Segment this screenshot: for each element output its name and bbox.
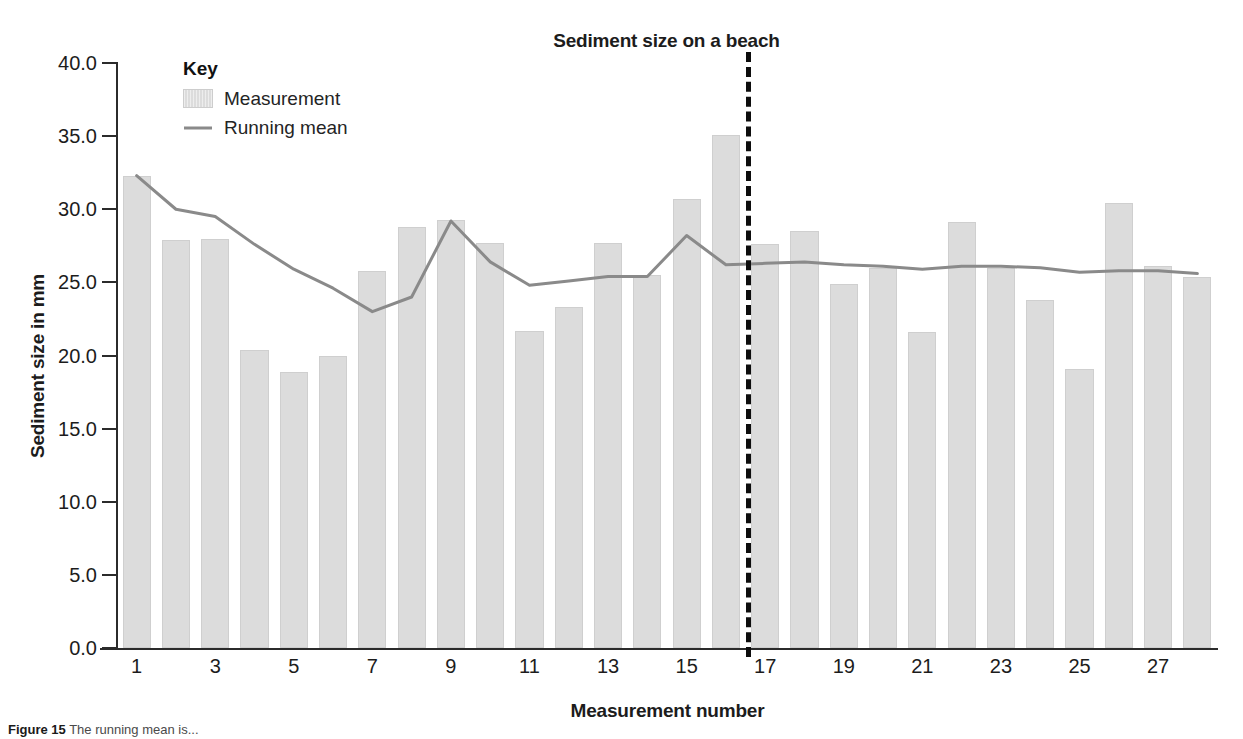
y-tick-label: 25.0	[58, 271, 97, 294]
y-tick-label: 35.0	[58, 125, 97, 148]
y-tick-label: 20.0	[58, 344, 97, 367]
y-tick-mark	[102, 574, 117, 576]
x-tick-label: 21	[911, 655, 933, 678]
x-tick-label: 7	[367, 655, 378, 678]
x-tick-label: 15	[676, 655, 698, 678]
x-tick-label: 5	[288, 655, 299, 678]
chart-title: Sediment size on a beach	[0, 30, 1243, 52]
legend-key: Key Measurement Running mean	[183, 58, 348, 141]
legend-label-measurement: Measurement	[224, 88, 340, 110]
legend-item-running-mean: Running mean	[183, 114, 348, 141]
x-axis-line	[100, 648, 1218, 650]
plot-area	[117, 63, 1217, 648]
chart-figure: Sediment size on a beach Sediment size i…	[0, 0, 1243, 739]
legend-label-running-mean: Running mean	[224, 117, 348, 139]
y-tick-mark	[102, 208, 117, 210]
y-tick-mark	[102, 428, 117, 430]
y-tick-mark	[102, 62, 117, 64]
x-tick-label: 17	[754, 655, 776, 678]
y-tick-label: 30.0	[58, 198, 97, 221]
legend-title: Key	[183, 58, 348, 80]
x-tick-label: 1	[131, 655, 142, 678]
figure-caption: Figure 15 The running mean is...	[8, 722, 1238, 739]
y-tick-mark	[102, 647, 117, 649]
y-tick-mark	[102, 281, 117, 283]
x-tick-label: 3	[210, 655, 221, 678]
x-tick-label: 19	[833, 655, 855, 678]
x-tick-label: 27	[1147, 655, 1169, 678]
y-axis: 0.05.010.015.020.025.030.035.040.0	[0, 0, 117, 739]
y-tick-mark	[102, 501, 117, 503]
x-tick-label: 9	[445, 655, 456, 678]
y-tick-label: 15.0	[58, 417, 97, 440]
x-tick-label: 13	[597, 655, 619, 678]
y-tick-mark	[102, 135, 117, 137]
y-tick-label: 5.0	[69, 563, 97, 586]
legend-line-swatch-icon	[183, 118, 213, 137]
running-mean-line	[137, 176, 1198, 312]
running-mean-series	[117, 63, 1217, 648]
y-tick-mark	[102, 355, 117, 357]
figure-caption-prefix: Figure 15	[8, 722, 66, 737]
x-tick-label: 11	[519, 655, 540, 678]
y-tick-label: 0.0	[69, 637, 97, 660]
legend-bar-swatch-icon	[183, 89, 213, 108]
x-tick-label: 25	[1068, 655, 1090, 678]
x-tick-label: 23	[990, 655, 1012, 678]
y-tick-label: 40.0	[58, 52, 97, 75]
divider-dashed-line	[746, 52, 751, 657]
x-axis-title: Measurement number	[120, 700, 1215, 722]
figure-caption-text: The running mean is...	[66, 722, 199, 737]
legend-item-measurement: Measurement	[183, 85, 348, 112]
y-tick-label: 10.0	[58, 490, 97, 513]
